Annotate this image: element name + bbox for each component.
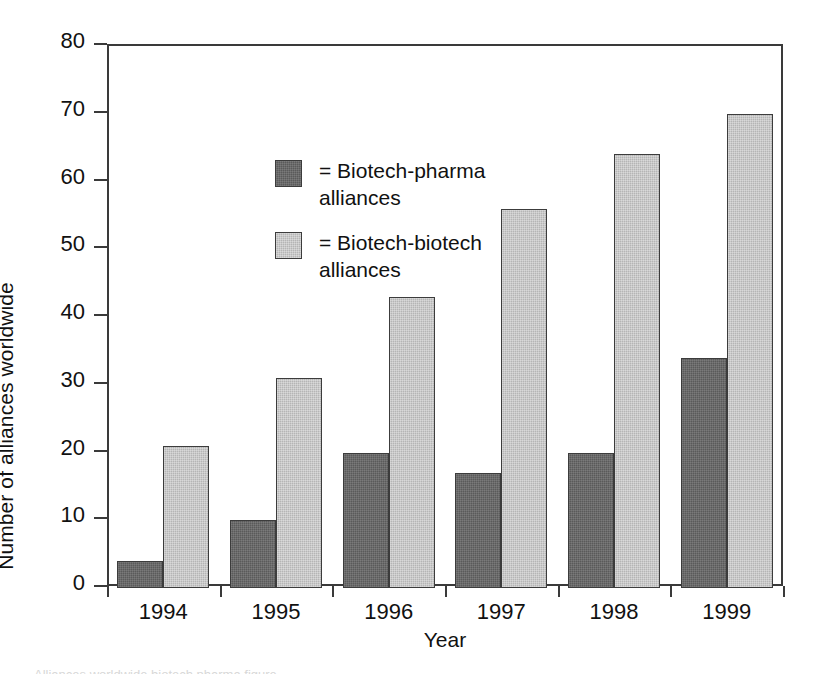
y-axis-tick-label: 60	[61, 166, 85, 188]
legend-label-line2: alliances	[319, 258, 401, 281]
x-axis-tick-label: 1997	[445, 600, 558, 623]
y-axis-tick-label: 80	[61, 30, 85, 52]
bar	[230, 520, 276, 588]
bar	[389, 297, 435, 588]
chart-legend: = Biotech-pharma alliances = Biotech-bio…	[275, 158, 485, 302]
legend-item-biotech-pharma: = Biotech-pharma alliances	[275, 158, 485, 212]
bar	[276, 378, 322, 588]
y-axis-tick-mark	[94, 382, 107, 384]
y-axis-tick-label: 40	[61, 301, 85, 323]
y-axis-tick-label: 20	[61, 437, 85, 459]
x-axis-tick-mark	[445, 586, 447, 597]
bar	[343, 453, 389, 589]
bar	[681, 358, 727, 588]
y-axis-tick-mark	[94, 179, 107, 181]
y-axis-tick-mark	[94, 43, 107, 45]
x-axis-tick-mark	[220, 586, 222, 597]
x-axis-tick-label: 1998	[558, 600, 671, 623]
legend-label-line1: = Biotech-biotech	[319, 231, 482, 254]
y-axis-title: Number of alliances worldwide	[0, 246, 18, 606]
legend-swatch-biotech-biotech-icon	[275, 232, 302, 259]
bar	[568, 453, 614, 589]
x-axis-tick-label: 1996	[332, 600, 445, 623]
legend-label-line1: = Biotech-pharma	[319, 159, 485, 182]
y-axis-tick-mark	[94, 450, 107, 452]
x-axis-tick-mark	[783, 586, 785, 597]
plot-area: = Biotech-pharma alliances = Biotech-bio…	[107, 44, 783, 586]
x-axis-title: Year	[107, 628, 783, 652]
legend-item-biotech-biotech: = Biotech-biotech alliances	[275, 230, 485, 284]
bar	[501, 209, 547, 588]
x-axis-tick-label: 1994	[107, 600, 220, 623]
bar	[455, 473, 501, 588]
y-axis-tick-mark	[94, 585, 107, 587]
y-axis-tick-mark	[94, 111, 107, 113]
chart-figure: Number of alliances worldwide 0102030405…	[0, 0, 816, 674]
x-axis-tick-label: 1995	[220, 600, 333, 623]
x-axis-tick-mark	[670, 586, 672, 597]
legend-label-biotech-biotech: = Biotech-biotech alliances	[319, 230, 482, 284]
y-axis-tick-mark	[94, 314, 107, 316]
y-axis-tick-label: 50	[61, 233, 85, 255]
legend-label-biotech-pharma: = Biotech-pharma alliances	[319, 158, 485, 212]
x-axis-tick-mark	[332, 586, 334, 597]
legend-label-line2: alliances	[319, 186, 401, 209]
bar	[117, 561, 163, 588]
x-axis-tick-label: 1999	[670, 600, 783, 623]
bar	[614, 154, 660, 588]
y-axis-tick-mark	[94, 517, 107, 519]
y-axis-tick-label: 70	[61, 98, 85, 120]
x-axis-tick-mark	[558, 586, 560, 597]
bar	[163, 446, 209, 588]
y-axis-tick-mark	[94, 246, 107, 248]
bar	[727, 114, 773, 588]
y-axis-tick-label: 30	[61, 369, 85, 391]
clipped-caption-text: Alliances worldwide biotech pharma figur…	[34, 668, 464, 674]
legend-swatch-biotech-pharma-icon	[275, 160, 302, 187]
x-axis-tick-mark	[107, 586, 109, 597]
y-axis-tick-label: 10	[61, 504, 85, 526]
y-axis-tick-label: 0	[73, 572, 85, 594]
